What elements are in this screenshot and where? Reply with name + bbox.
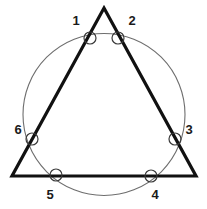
figure-background: [0, 0, 207, 209]
geometry-figure-svg: 123456: [0, 0, 207, 209]
geometry-figure-container: 123456: [0, 0, 207, 209]
point-label-4: 4: [151, 187, 159, 202]
point-label-2: 2: [128, 13, 135, 28]
point-label-5: 5: [46, 187, 53, 202]
point-label-3: 3: [185, 122, 192, 137]
point-label-1: 1: [72, 13, 79, 28]
point-label-6: 6: [14, 122, 21, 137]
